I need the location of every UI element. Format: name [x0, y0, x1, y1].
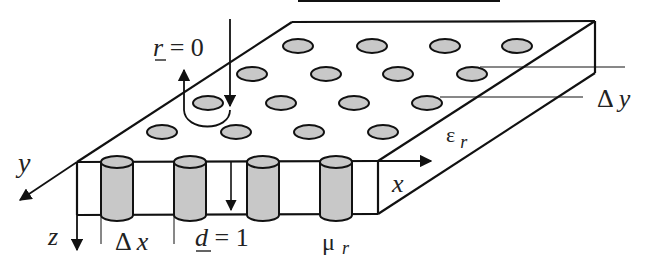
epsilon-label: εr	[446, 122, 468, 152]
cylinder	[320, 156, 352, 221]
mu-label: μr	[322, 229, 350, 258]
cylinder	[247, 156, 279, 221]
x-axis-label: x	[391, 169, 404, 198]
reflection-label: r = 0	[153, 33, 204, 62]
inclusion-ellipse	[412, 96, 442, 110]
periodic-slab-diagram: r = 0 y z x Δ x Δ y d = 1 εr μr	[0, 0, 654, 268]
inclusion-grid	[147, 39, 532, 139]
inclusion-ellipse	[339, 96, 369, 110]
inclusion-ellipse	[283, 39, 313, 53]
inclusion-ellipse	[357, 39, 387, 53]
inclusion-ellipse	[457, 67, 487, 81]
inclusion-ellipse	[368, 125, 398, 139]
inclusion-ellipse	[237, 67, 267, 81]
inclusion-ellipse	[294, 125, 324, 139]
y-axis-label: y	[15, 147, 31, 178]
thickness-label: d = 1	[195, 223, 249, 252]
delta-x-label: Δ x	[115, 227, 149, 256]
inclusion-ellipse	[193, 96, 223, 110]
inclusion-ellipse	[311, 67, 341, 81]
inclusion-ellipse	[502, 39, 532, 53]
delta-y-label: Δ y	[597, 84, 631, 113]
inclusion-ellipse	[266, 96, 296, 110]
inclusion-ellipse	[147, 125, 177, 139]
cylinder	[101, 156, 133, 221]
inclusion-ellipse	[430, 39, 460, 53]
inclusion-ellipse	[221, 125, 251, 139]
inclusion-ellipse	[383, 67, 413, 81]
z-axis-label: z	[47, 222, 58, 251]
front-cylinders	[101, 156, 352, 221]
cylinder	[174, 156, 206, 221]
